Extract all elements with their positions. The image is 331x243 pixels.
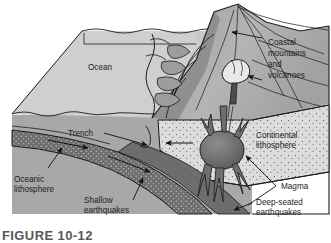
- label-coastal-line1: Coastal: [268, 38, 296, 47]
- label-continental-lithosphere-line2: lithosphere: [256, 141, 297, 150]
- label-coastal-line3: and: [268, 60, 282, 69]
- label-coastal-line4: volcanoes: [268, 71, 305, 80]
- label-deep-seated-line2: earthquakes: [256, 208, 301, 217]
- label-trench: Trench: [68, 129, 94, 138]
- label-shallow-earthquakes-line1: Shallow: [84, 196, 113, 205]
- label-shallow-earthquakes-line2: earthquakes: [84, 206, 129, 215]
- label-continental-lithosphere-line1: Continental: [256, 131, 298, 140]
- label-oceanic-lithosphere-line1: Oceanic: [14, 175, 44, 184]
- label-magma: Magma: [281, 182, 309, 191]
- label-ocean: Ocean: [88, 63, 113, 72]
- figure-container: Ocean Trench Oceanic lithosphere Shallow…: [0, 0, 331, 243]
- label-deep-seated-line1: Deep-seated: [256, 198, 303, 207]
- label-coastal-line2: mountains: [268, 49, 306, 58]
- subduction-zone-block-diagram: Ocean Trench Oceanic lithosphere Shallow…: [0, 0, 331, 227]
- label-oceanic-lithosphere-line2: lithosphere: [14, 185, 55, 194]
- figure-caption: FIGURE 10-12: [2, 228, 202, 243]
